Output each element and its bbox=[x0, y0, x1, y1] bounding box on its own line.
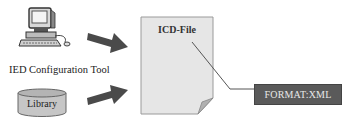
arrow-tool-to-file bbox=[86, 25, 130, 55]
arrow-library-to-file bbox=[86, 82, 130, 112]
library-cylinder: Library bbox=[16, 88, 68, 118]
callout-line bbox=[190, 40, 256, 92]
computer-icon bbox=[17, 6, 73, 52]
library-label: Library bbox=[16, 98, 68, 109]
tool-label: IED Configuration Tool bbox=[9, 64, 110, 75]
icd-file-label: ICD-File bbox=[140, 24, 214, 35]
format-label: FORMAT:XML bbox=[264, 89, 331, 100]
format-xml-box: FORMAT:XML bbox=[254, 84, 342, 105]
